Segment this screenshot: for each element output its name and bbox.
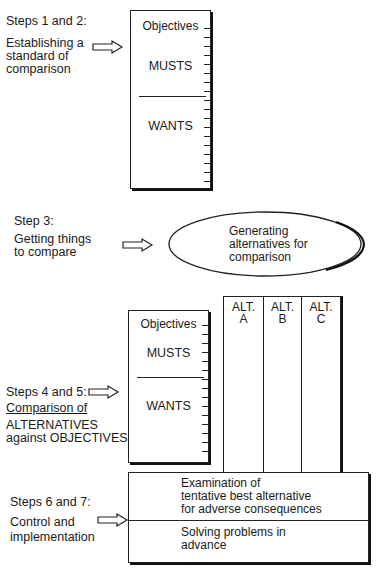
step-1-2-desc-line3: comparison — [6, 62, 71, 76]
alt-c-letter: C — [302, 313, 340, 325]
step-3-desc-line1: Getting things — [14, 232, 91, 246]
musts-wants-divider — [139, 96, 206, 97]
step-6-7-desc-line2: implementation — [10, 530, 95, 544]
step-4-5-title: Steps 4 and 5: — [6, 385, 87, 399]
alternatives-table: ALT. A ALT. B ALT. C — [223, 296, 341, 476]
step-3-title: Step 3: — [14, 214, 54, 228]
step-4-5-desc-line1: Comparison of — [6, 401, 87, 415]
objectives-box-2: Objectives MUSTS WANTS — [128, 310, 209, 463]
step-1-2-desc-line1: Establishing a — [6, 36, 84, 50]
step-3-desc-line2: to compare — [14, 245, 77, 259]
examination-line3: for adverse consequences — [181, 503, 322, 516]
arrow-icon — [97, 513, 129, 527]
musts-label: MUSTS — [129, 346, 208, 360]
step-1-2-title: Steps 1 and 2: — [6, 14, 87, 28]
alt-b-letter: B — [264, 313, 301, 325]
step-6-7-desc-line1: Control and — [10, 515, 75, 529]
control-implementation-box: Examination of tentative best alternativ… — [128, 472, 369, 563]
ellipse-line2: alternatives for — [229, 237, 308, 251]
objectives-header: Objectives — [129, 317, 208, 331]
step-1-2-desc-line2: standard of — [6, 49, 69, 63]
arrow-icon — [122, 238, 154, 252]
wants-label: WANTS — [131, 119, 210, 133]
step-4-5-desc-line2: ALTERNATIVES — [6, 418, 98, 432]
ellipse-line1: Generating — [229, 224, 288, 238]
alt-column-c: ALT. C — [302, 297, 340, 475]
wants-label: WANTS — [129, 399, 208, 413]
musts-label: MUSTS — [131, 59, 210, 73]
arrow-icon — [92, 40, 124, 54]
scale-ticks — [201, 311, 209, 462]
alt-a-letter: A — [224, 313, 263, 325]
ellipse-line3: comparison — [229, 250, 291, 264]
box-divider — [129, 520, 368, 521]
musts-wants-divider — [137, 377, 204, 378]
objectives-box-1: Objectives MUSTS WANTS — [130, 10, 211, 189]
scale-ticks — [203, 11, 211, 188]
alt-column-a: ALT. A — [224, 297, 264, 475]
solving-line2: advance — [181, 539, 226, 552]
step-4-5-desc-line3: against OBJECTIVES — [6, 431, 128, 445]
alt-column-b: ALT. B — [264, 297, 302, 475]
arrow-icon — [88, 385, 120, 399]
step-6-7-title: Steps 6 and 7: — [10, 495, 91, 509]
objectives-header: Objectives — [131, 19, 210, 33]
